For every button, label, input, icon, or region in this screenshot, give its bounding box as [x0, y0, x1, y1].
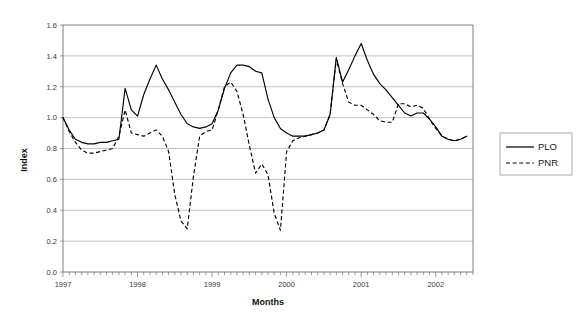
x-tick-marks-group [63, 272, 473, 277]
y-tick-label: 0.0 [47, 268, 57, 277]
x-tick-labels-group: 199719981999200020012002 [55, 280, 444, 289]
y-tick-label: 1.4 [47, 52, 57, 61]
x-tick-label: 2000 [278, 280, 295, 289]
y-tick-labels-group: 0.00.20.40.60.81.01.21.41.6 [47, 21, 57, 277]
chart-figure: 0.00.20.40.60.81.01.21.41.6 199719981999… [0, 0, 584, 318]
y-tick-label: 1.2 [47, 83, 57, 92]
y-tick-label: 1.0 [47, 113, 57, 122]
legend-label-pnr: PNR [538, 157, 558, 168]
y-tick-label: 1.6 [47, 21, 57, 30]
y-tick-label: 0.6 [47, 175, 57, 184]
gridlines-group [63, 56, 473, 241]
x-tick-label: 1997 [55, 280, 72, 289]
legend-label-plo: PLO [538, 141, 557, 152]
y-axis-title: Index [19, 148, 29, 172]
legend-box [500, 133, 572, 175]
chart-legend: PLO PNR [500, 133, 572, 175]
y-tick-label: 0.2 [47, 237, 57, 246]
x-tick-label: 2002 [427, 280, 444, 289]
y-tick-label: 0.8 [47, 144, 57, 153]
line-chart: 0.00.20.40.60.81.01.21.41.6 199719981999… [0, 0, 584, 318]
x-tick-label: 1998 [129, 280, 146, 289]
x-axis-title: Months [252, 297, 284, 307]
y-tick-label: 0.4 [47, 206, 57, 215]
x-tick-label: 1999 [204, 280, 221, 289]
x-tick-label: 2001 [353, 280, 370, 289]
series-line-plo [63, 44, 467, 144]
